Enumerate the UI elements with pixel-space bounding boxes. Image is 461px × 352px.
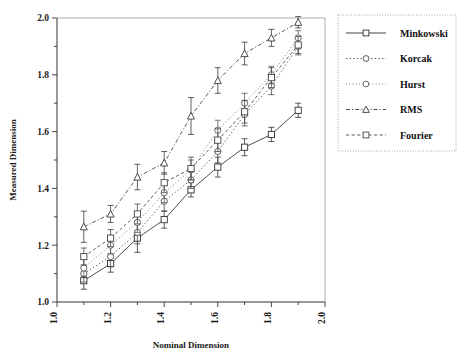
series-line <box>84 45 298 257</box>
data-marker-circle <box>108 253 114 259</box>
series-errorbars <box>81 36 301 265</box>
data-marker-square <box>242 144 248 150</box>
data-marker-triangle <box>80 223 87 230</box>
x-tick-label: 1.4 <box>156 312 166 324</box>
x-tick-label: 2.0 <box>317 312 327 324</box>
series-markers <box>81 42 302 260</box>
data-marker-square <box>242 109 248 115</box>
data-marker-circle <box>363 81 369 87</box>
data-marker-square <box>295 107 301 113</box>
data-marker-square <box>81 253 87 259</box>
x-axis-ticks: 1.01.21.41.61.82.0 <box>49 302 327 324</box>
series-rms <box>80 17 301 243</box>
y-tick-label: 1.0 <box>37 297 49 307</box>
data-marker-square <box>363 30 369 36</box>
x-tick-label: 1.8 <box>263 312 273 324</box>
line-chart-canvas: 1.01.21.41.61.82.01.01.21.41.61.82.0Nomi… <box>0 0 461 352</box>
y-tick-label: 2.0 <box>37 13 49 23</box>
data-marker-triangle <box>295 19 302 26</box>
data-marker-square <box>215 164 221 170</box>
x-tick-label: 1.2 <box>103 312 113 324</box>
y-axis-title: Measured Dimension <box>8 119 18 201</box>
y-tick-label: 1.2 <box>37 241 49 251</box>
legend-label: RMS <box>400 104 423 115</box>
y-tick-label: 1.4 <box>37 184 49 194</box>
legend: MinkowskiKorcakHurstRMSFourier <box>338 15 456 151</box>
data-marker-square <box>161 180 167 186</box>
data-marker-triangle <box>268 34 275 41</box>
data-marker-triangle <box>134 173 141 180</box>
legend-label: Korcak <box>400 53 432 64</box>
data-marker-circle <box>81 265 87 271</box>
x-tick-label: 1.6 <box>210 312 220 324</box>
y-axis-ticks: 1.01.21.41.61.82.0 <box>37 13 57 307</box>
data-marker-square <box>134 211 140 217</box>
y-tick-label: 1.8 <box>37 70 49 80</box>
series-fourier <box>81 36 302 265</box>
legend-label: Hurst <box>400 79 426 90</box>
legend-label: Minkowski <box>400 28 448 39</box>
data-marker-square <box>363 132 369 138</box>
data-marker-square <box>268 131 274 137</box>
series-errorbars <box>81 17 301 243</box>
axis-titles: Nominal DimensionMeasured Dimension <box>8 119 229 350</box>
chart-figure: 1.01.21.41.61.82.01.01.21.41.61.82.0Nomi… <box>0 0 461 352</box>
data-marker-square <box>188 165 194 171</box>
x-axis-title: Nominal Dimension <box>153 340 229 350</box>
legend-label: Fourier <box>400 130 433 141</box>
data-marker-triangle <box>161 159 168 166</box>
data-marker-square <box>161 217 167 223</box>
data-marker-triangle <box>241 50 248 57</box>
data-marker-square <box>268 75 274 81</box>
data-marker-square <box>215 137 221 143</box>
x-tick-label: 1.0 <box>49 312 59 324</box>
data-marker-circle <box>363 56 369 62</box>
data-marker-square <box>108 235 114 241</box>
y-tick-label: 1.6 <box>37 127 49 137</box>
data-marker-triangle <box>214 77 221 84</box>
data-marker-square <box>295 42 301 48</box>
data-marker-triangle <box>107 210 114 217</box>
